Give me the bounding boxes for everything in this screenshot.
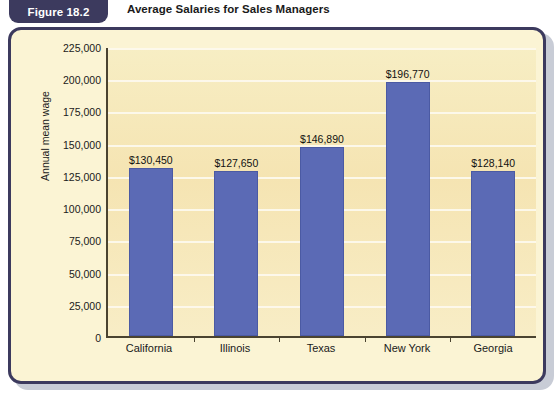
y-axis-tick-label: 100,000	[63, 203, 101, 215]
bar-series: $130,450$127,650$146,890$196,770$128,140	[108, 48, 536, 336]
bar-slot: $128,140	[450, 48, 536, 336]
x-axis-tick-label: Georgia	[450, 342, 536, 354]
bar-value-label: $146,890	[300, 133, 344, 145]
bar-slot: $146,890	[279, 48, 365, 336]
bar[interactable]: $196,770	[386, 82, 430, 336]
x-axis-tick-label: Texas	[278, 342, 364, 354]
bar-value-label: $130,450	[129, 154, 173, 166]
y-axis-tick-label: 75,000	[69, 235, 101, 247]
x-axis-tick-label: California	[106, 342, 192, 354]
bar[interactable]: $128,140	[471, 171, 515, 336]
bar[interactable]: $127,650	[214, 171, 258, 336]
y-axis-tick-label: 150,000	[63, 139, 101, 151]
y-axis-tick-label: 200,000	[63, 74, 101, 86]
y-axis-tick-label: 50,000	[69, 268, 101, 280]
bar-slot: $130,450	[108, 48, 194, 336]
bar-value-label: $127,650	[214, 157, 258, 169]
chart-card: Annual mean wage 225,000200,000175,00015…	[8, 27, 546, 384]
figure-number-tab: Figure 18.2	[9, 0, 108, 23]
bar-value-label: $196,770	[386, 68, 430, 80]
bar[interactable]: $146,890	[300, 147, 344, 336]
y-axis-tick-label: 175,000	[63, 106, 101, 118]
y-axis-tick-label: 225,000	[63, 42, 101, 54]
figure-title: Average Salaries for Sales Managers	[127, 3, 330, 15]
chart-area: Annual mean wage 225,000200,000175,00015…	[11, 30, 543, 381]
x-axis-tick-label: New York	[364, 342, 450, 354]
bar-slot: $127,650	[194, 48, 280, 336]
y-axis-tick-label: 125,000	[63, 171, 101, 183]
figure-header: Figure 18.2 Average Salaries for Sales M…	[0, 0, 560, 26]
bar-value-label: $128,140	[471, 157, 515, 169]
y-axis-tick-labels: 225,000200,000175,000150,000125,000100,0…	[33, 48, 105, 338]
x-axis-tick-labels: CaliforniaIllinoisTexasNew YorkGeorgia	[106, 342, 536, 354]
plot-region: $130,450$127,650$146,890$196,770$128,140	[106, 48, 536, 338]
bar[interactable]: $130,450	[129, 168, 173, 336]
y-axis-tick-label: 0	[95, 332, 101, 344]
figure-panel: Figure 18.2 Average Salaries for Sales M…	[0, 0, 560, 396]
x-axis-tick-label: Illinois	[192, 342, 278, 354]
y-axis-tick-label: 25,000	[69, 300, 101, 312]
bar-slot: $196,770	[365, 48, 451, 336]
